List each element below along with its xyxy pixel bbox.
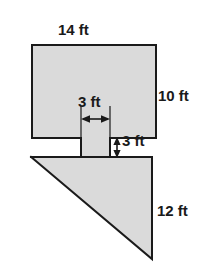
depth-arrow-vertical	[113, 137, 120, 158]
composite-shape-diagram	[0, 0, 204, 274]
composite-shape-group	[31, 45, 156, 259]
dimension-label-right-lower-height: 12 ft	[157, 203, 188, 218]
dimension-label-right-upper-height: 10 ft	[158, 88, 189, 103]
top-rectangle-part	[32, 45, 156, 138]
figure-container: 14 ft 10 ft 3 ft 3 ft 12 ft	[0, 0, 204, 274]
notch-column-part	[81, 138, 110, 157]
dimension-label-inner-depth: 3 ft	[122, 133, 145, 148]
dimension-label-inner-width: 3 ft	[78, 94, 101, 109]
dimension-label-top-width: 14 ft	[58, 22, 89, 37]
